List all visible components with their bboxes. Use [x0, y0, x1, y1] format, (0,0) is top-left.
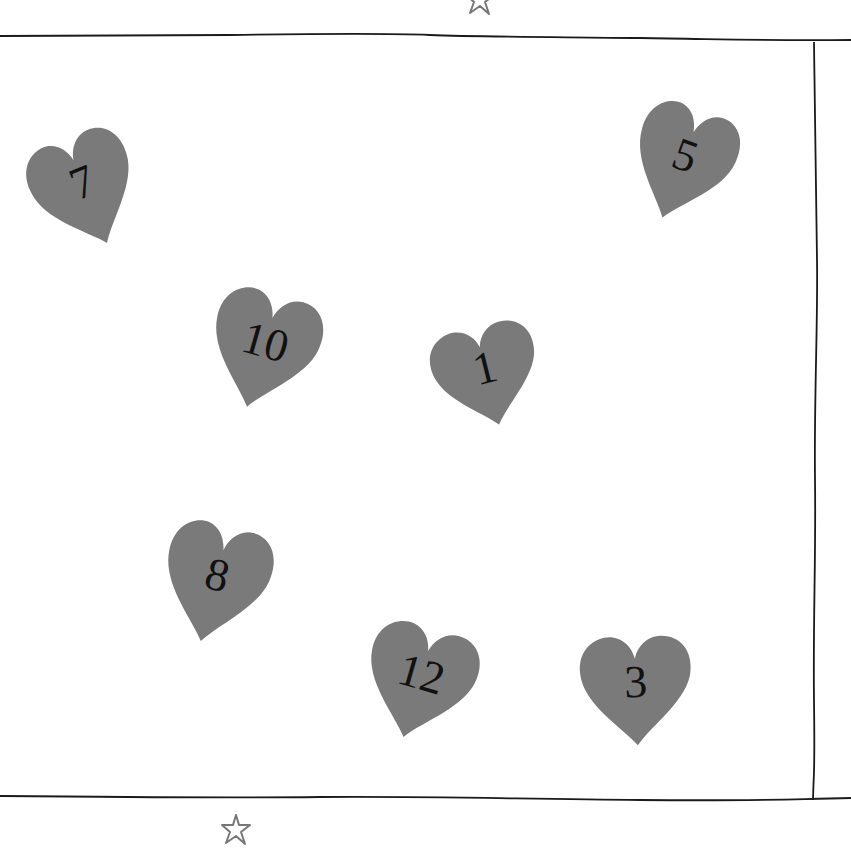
game-board: 751018123	[0, 0, 851, 858]
heart-number: 3	[574, 628, 698, 737]
top-border-line	[0, 34, 851, 40]
heart-card-3[interactable]: 3	[574, 628, 698, 754]
bottom-border-line	[0, 796, 851, 800]
right-border-line	[813, 42, 817, 800]
star-icon-bottom	[218, 812, 254, 848]
star-icon-top	[462, 0, 498, 18]
